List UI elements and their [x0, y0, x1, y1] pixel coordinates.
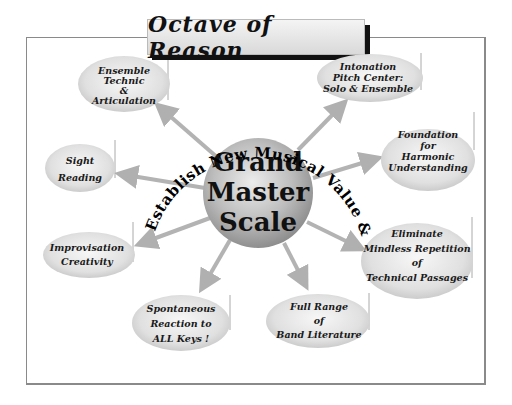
node-spontaneous-reaction: Spontaneous Reaction to ALL Keys ! — [132, 295, 230, 351]
node-label-line: Band Literature — [275, 329, 361, 340]
node-label-line: Creativity — [61, 256, 114, 267]
node-sight-reading: Sight Reading — [45, 140, 115, 192]
node-label-line: Full Range — [289, 301, 348, 312]
node-full-range: Full Range of Band Literature — [266, 293, 370, 348]
node-label-line: Foundation — [397, 129, 459, 140]
node-label-line: ALL Keys ! — [152, 333, 209, 344]
node-label-line: Spontaneous — [147, 303, 216, 314]
node-intonation: Intonation Pitch Center: Solo & Ensemble — [317, 53, 423, 102]
diagram-canvas: Octave of Reason — [0, 0, 512, 405]
node-label-line: Technical Passages — [366, 272, 469, 283]
node-label-line: Solo & Ensemble — [323, 83, 413, 94]
arc-caption-path: Establish New Musical Value & Worth ! — [0, 0, 375, 239]
node-label-line: Improvisation — [49, 242, 124, 253]
node-bubble — [45, 144, 115, 192]
node-label-line: Eliminate — [390, 228, 443, 239]
arc-caption: Establish New Musical Value & Worth ! — [0, 0, 375, 239]
node-label-line: Intonation — [339, 61, 396, 72]
arrow-to-intonation — [298, 107, 340, 150]
node-label-line: Articulation — [91, 95, 156, 106]
node-foundation-harmonic: Foundation for Harmonic Understanding — [381, 112, 475, 191]
node-label-line: Reaction to — [149, 318, 212, 329]
diagram-svg: Grand Master Scale Establish New Musical… — [0, 0, 512, 405]
node-bubble — [43, 232, 135, 278]
arrow-to-ensemble-technic — [163, 110, 218, 158]
node-label-line: for — [419, 140, 436, 151]
node-label-line: Reading — [57, 172, 102, 183]
center-label-line-3: Scale — [219, 207, 297, 237]
node-eliminate-repetition: Eliminate Mindless Repetition of Technic… — [361, 217, 473, 299]
arrow-to-full-range — [284, 243, 303, 280]
node-improvisation: Improvisation Creativity — [43, 222, 135, 278]
node-label-line: Pitch Center: — [332, 72, 404, 83]
arrow-to-eliminate-repetition — [307, 222, 356, 246]
arrow-to-spontaneous-reaction — [205, 240, 230, 283]
node-ensemble-technic: Ensemble Technic & Articulation — [78, 56, 170, 112]
node-label-line: Harmonic — [401, 151, 455, 162]
node-label-line: Mindless Repetition — [362, 243, 470, 254]
node-label-line: Understanding — [388, 162, 468, 173]
node-label-line: Sight — [66, 155, 95, 166]
center-label-line-2: Master — [207, 177, 310, 207]
